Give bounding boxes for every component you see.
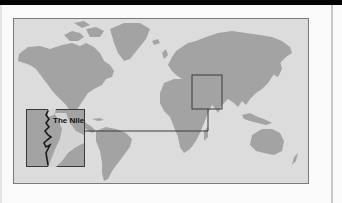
left-page-edge (0, 5, 2, 203)
nile-label: The Nile (53, 116, 85, 125)
world-map-frame: The Nile (13, 18, 309, 184)
right-page-edge (331, 5, 333, 203)
nile-inset: The Nile (26, 109, 85, 167)
top-bar (0, 0, 342, 5)
nile-inset-map: The Nile (26, 109, 85, 167)
